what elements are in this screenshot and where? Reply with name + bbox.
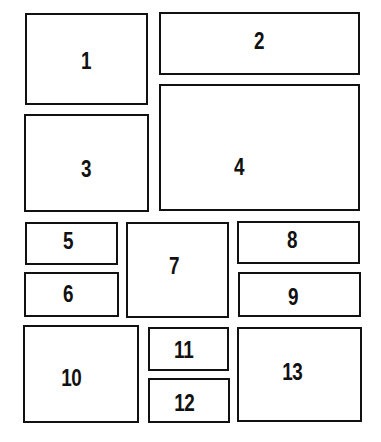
panel-5: 5: [25, 222, 118, 265]
panel-label: 4: [234, 156, 244, 179]
panel-13: 13: [237, 327, 362, 422]
panel-11: 11: [148, 327, 229, 371]
panel-label: 3: [81, 158, 91, 181]
panel-label: 6: [63, 283, 73, 306]
panel-label: 13: [282, 361, 302, 384]
panel-8: 8: [237, 221, 360, 264]
panel-label: 5: [63, 230, 73, 253]
panel-4: 4: [159, 84, 360, 211]
panel-label: 7: [169, 255, 179, 278]
panel-label: 12: [174, 392, 194, 415]
panel-label: 10: [61, 367, 81, 390]
panel-1: 1: [25, 13, 148, 105]
panel-label: 2: [254, 30, 264, 53]
panel-2: 2: [159, 12, 360, 75]
panel-3: 3: [24, 114, 149, 212]
panel-9: 9: [238, 272, 361, 317]
panel-7: 7: [126, 222, 229, 318]
panel-label: 1: [81, 50, 91, 73]
panel-label: 9: [288, 286, 298, 309]
panel-label: 11: [174, 339, 193, 362]
panel-10: 10: [23, 325, 139, 423]
panel-12: 12: [148, 378, 230, 423]
panel-label: 8: [287, 229, 297, 252]
panel-6: 6: [24, 272, 119, 317]
